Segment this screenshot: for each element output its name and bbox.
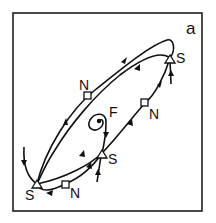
label-node-bottom: N	[70, 185, 80, 201]
arrow-icon	[21, 160, 27, 166]
label-saddle-middle: S	[108, 151, 117, 167]
panel-label: a	[186, 19, 196, 38]
frame	[13, 13, 202, 211]
arrow-icon	[79, 150, 85, 157]
arrow-icon	[168, 70, 174, 76]
arrow-icon	[103, 132, 109, 138]
label-node-upper-left: N	[79, 77, 89, 93]
focus-point-icon	[97, 119, 101, 123]
label-focus: F	[109, 104, 118, 120]
label-saddle-top-right: S	[176, 50, 185, 66]
node-upper-left-icon	[84, 92, 91, 99]
arrow-icon	[46, 190, 53, 196]
arrow-icon	[95, 169, 101, 175]
arrow-icon	[121, 57, 127, 64]
incoming-bottom-left	[24, 147, 37, 184]
label-node-right: N	[149, 106, 159, 122]
saddle-middle-icon	[97, 150, 107, 158]
node-bottom-icon	[62, 181, 69, 188]
label-saddle-bottom-left: S	[25, 187, 34, 203]
node-right-icon	[141, 99, 148, 106]
phase-portrait-diagram: a S	[0, 0, 216, 223]
